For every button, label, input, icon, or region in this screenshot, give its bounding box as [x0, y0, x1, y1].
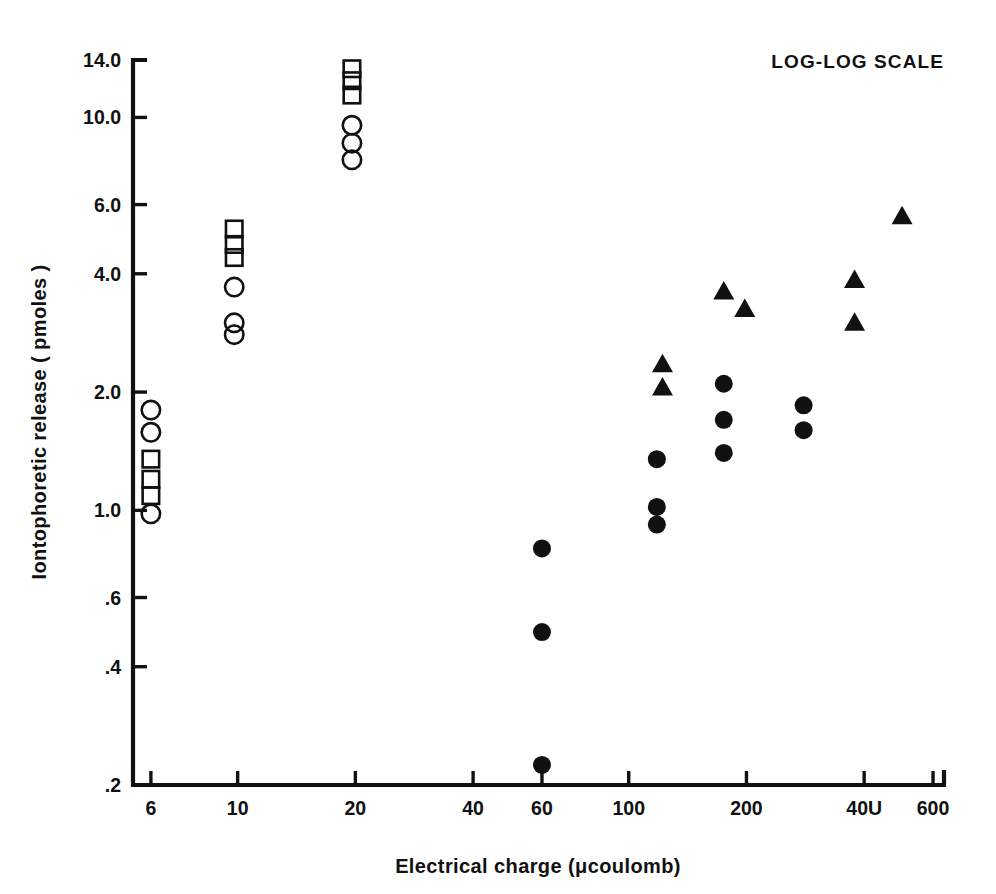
data-point-open-square [344, 61, 361, 77]
data-point-filled-triangle [713, 281, 734, 300]
y-tick-6p0: 6.0 [94, 194, 147, 216]
data-point-filled-triangle [652, 377, 673, 396]
y-tick-label: 14.0 [83, 49, 121, 71]
data-point-filled-triangle [844, 270, 865, 289]
x-tick-10: 10 [227, 771, 249, 819]
x-tick-label: 6 [145, 797, 156, 819]
data-point-filled-triangle [734, 298, 755, 317]
y-axis-title: Iontophoretic release ( pmoles ) [28, 264, 50, 579]
y-tick-label: 1.0 [94, 499, 121, 521]
y-tick-p4: .4 [105, 656, 147, 678]
series-open-square [143, 61, 361, 504]
series-filled-triangle [652, 206, 913, 396]
data-point-open-square [143, 451, 160, 468]
x-tick-label: 100 [612, 797, 645, 819]
log-log-scale-annotation: LOG-LOG SCALE [771, 51, 944, 72]
series-open-circle [142, 116, 361, 523]
data-point-open-circle [225, 325, 243, 343]
data-point-open-square [226, 221, 243, 238]
data-point-open-circle [142, 423, 160, 441]
data-point-filled-circle [715, 375, 733, 393]
y-tick-2p0: 2.0 [94, 381, 147, 403]
x-tick-label: 600 [917, 797, 950, 819]
data-point-filled-circle [533, 756, 551, 774]
scatter-plot-figure: .2.4.61.02.04.06.010.014.0 6102040601002… [0, 0, 996, 894]
x-tick-40U: 40U [846, 771, 882, 819]
data-point-filled-circle [715, 411, 733, 429]
data-point-group [142, 61, 913, 774]
data-point-filled-triangle [844, 312, 865, 331]
x-axis-title: Electrical charge (μcoulomb) [395, 855, 681, 877]
data-point-open-circle [343, 116, 361, 134]
x-tick-200: 200 [730, 771, 763, 819]
y-tick-p6: .6 [105, 587, 147, 609]
data-point-filled-triangle [892, 206, 913, 225]
y-tick-label: .2 [105, 774, 121, 796]
data-point-open-square [143, 471, 160, 488]
data-point-open-circle [142, 505, 160, 523]
y-tick-label: 10.0 [83, 106, 121, 128]
x-tick-label: 200 [730, 797, 763, 819]
x-tick-label: 60 [531, 797, 553, 819]
y-tick-4p0: 4.0 [94, 263, 147, 285]
data-point-filled-circle [648, 516, 666, 534]
data-point-filled-circle [533, 539, 551, 557]
data-point-filled-circle [715, 444, 733, 462]
data-point-filled-circle [533, 623, 551, 641]
data-point-filled-circle [795, 396, 813, 414]
x-tick-6: 6 [145, 771, 156, 819]
data-point-filled-circle [648, 498, 666, 516]
y-tick-1p0: 1.0 [94, 499, 147, 521]
data-point-open-square [143, 487, 160, 504]
x-tick-label: 40U [846, 797, 882, 819]
data-point-filled-circle [648, 450, 666, 468]
axis-lines [133, 60, 944, 785]
x-tick-20: 20 [345, 771, 367, 819]
x-tick-100: 100 [612, 771, 645, 819]
plot-canvas: .2.4.61.02.04.06.010.014.0 6102040601002… [0, 0, 996, 894]
x-tick-label: 10 [227, 797, 249, 819]
y-tick-label: 2.0 [94, 381, 121, 403]
y-tick-label: 4.0 [94, 263, 121, 285]
axes-group [133, 60, 944, 785]
data-point-open-circle [225, 278, 243, 296]
y-tick-10p0: 10.0 [83, 106, 147, 128]
y-tick-label: .6 [105, 587, 121, 609]
x-tick-label: 20 [345, 797, 367, 819]
x-tick-60: 60 [531, 771, 553, 819]
y-axis-ticks: .2.4.61.02.04.06.010.014.0 [83, 49, 147, 796]
x-tick-label: 40 [462, 797, 484, 819]
y-tick-label: .4 [105, 656, 121, 678]
y-tick-label: 6.0 [94, 194, 121, 216]
y-tick-14p0: 14.0 [83, 49, 147, 71]
y-tick-p2: .2 [105, 774, 147, 796]
x-tick-40: 40 [462, 771, 484, 819]
x-axis-ticks: 61020406010020040U600 [145, 771, 949, 819]
data-point-filled-triangle [652, 354, 673, 373]
data-point-filled-circle [795, 421, 813, 439]
data-point-open-circle [142, 401, 160, 419]
series-filled-circle [533, 375, 813, 774]
